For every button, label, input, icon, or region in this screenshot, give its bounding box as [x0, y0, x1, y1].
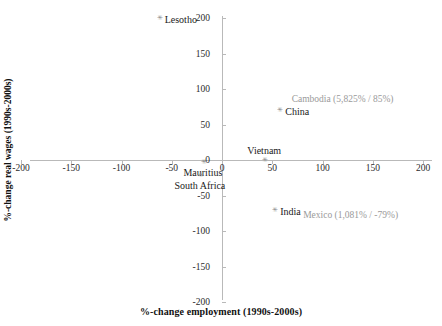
y-tick-label: 50 — [201, 120, 211, 130]
data-point-marker — [277, 110, 281, 114]
y-tick-mark — [222, 125, 226, 126]
y-tick-mark — [222, 18, 226, 19]
y-tick-mark — [222, 196, 226, 197]
y-tick-mark — [222, 54, 226, 55]
y-tick-mark — [222, 89, 226, 90]
x-tick-label: -100 — [113, 163, 130, 173]
x-tick-label: 150 — [366, 163, 380, 173]
x-tick-mark — [373, 160, 374, 164]
y-tick-label: -150 — [193, 262, 210, 272]
scatter-plot: -200-150-100-50050100150200 -200-150-100… — [0, 0, 442, 326]
data-point-label: Vietnam — [247, 145, 281, 156]
data-point-marker — [272, 210, 276, 214]
data-point-label: India — [280, 206, 301, 217]
data-point-marker — [201, 162, 205, 166]
y-tick-mark — [222, 231, 226, 232]
x-tick-mark — [423, 160, 424, 164]
offchart-annotation: Mexico (1,081% / -79%) — [303, 210, 398, 220]
x-tick-mark — [71, 160, 72, 164]
y-axis-line — [222, 16, 223, 300]
x-tick-label: 100 — [315, 163, 329, 173]
x-tick-mark — [172, 160, 173, 164]
y-tick-label: 150 — [196, 49, 210, 59]
y-tick-label: 100 — [196, 84, 210, 94]
y-tick-mark — [222, 302, 226, 303]
x-tick-mark — [122, 160, 123, 164]
x-tick-label: 200 — [416, 163, 430, 173]
data-point-label: Lesotho — [165, 14, 197, 25]
y-axis-title: %-change real wages (1990s-2000s) — [3, 50, 13, 250]
x-tick-mark — [323, 160, 324, 164]
x-tick-mark — [272, 160, 273, 164]
offchart-annotation: Cambodia (5,825% / 85%) — [292, 94, 394, 104]
y-tick-label: 200 — [196, 13, 210, 23]
x-axis-title: %-change employment (1990s-2000s) — [0, 306, 442, 317]
x-tick-label: 50 — [268, 163, 278, 173]
data-point-marker — [198, 175, 202, 179]
x-axis-line — [30, 160, 432, 161]
data-point-marker — [157, 18, 161, 22]
y-tick-label: -50 — [197, 191, 210, 201]
data-point-label: South Africa — [174, 180, 225, 191]
data-point-marker — [262, 160, 266, 164]
x-tick-label: -200 — [12, 163, 29, 173]
x-tick-label: -50 — [165, 163, 178, 173]
y-tick-label: -100 — [193, 226, 210, 236]
x-tick-label: -150 — [63, 163, 80, 173]
x-tick-mark — [21, 160, 22, 164]
y-tick-mark — [222, 267, 226, 268]
data-point-label: China — [285, 106, 309, 117]
